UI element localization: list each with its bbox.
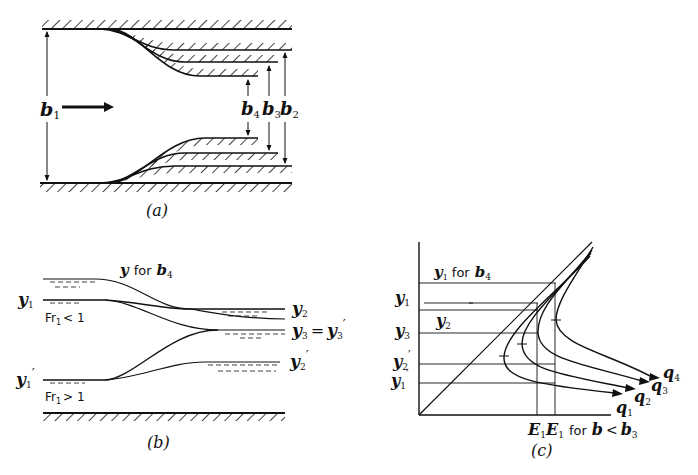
c-top-label: y1forb4 — [433, 263, 491, 282]
label-q4: q4 — [663, 363, 680, 383]
bottom-contractions — [100, 138, 292, 183]
surface-dashes — [50, 282, 285, 383]
label-fr-supercritical: Fr1> 1 — [45, 390, 85, 406]
panel-a-caption: (a) — [146, 201, 168, 220]
curve-q4 — [556, 247, 652, 377]
b2-label: b2 — [280, 98, 299, 120]
channel-bed-hatch — [43, 414, 285, 421]
label-y3-eq-y3-prime: y3=y3′ — [291, 317, 346, 341]
label-q2: q2 — [634, 387, 651, 407]
curve-q1 — [504, 256, 615, 393]
bottom-wall-hatch — [40, 184, 292, 192]
c-label-y1: y1 — [394, 288, 410, 308]
panel-c-specific-energy-diagram: y1 y3 y2′ y1′ y1forb4 y2 q1 q2 q3 q4 E1E… — [390, 242, 680, 460]
top-contractions — [100, 29, 292, 76]
panel-b-title: yforb4 — [119, 261, 173, 280]
b3-label: b3 — [262, 98, 281, 120]
curve-q2 — [522, 253, 628, 388]
energy-curves — [504, 247, 652, 393]
water-surfaces — [43, 279, 285, 383]
label-q1: q1 — [616, 398, 633, 418]
top-wall-hatch — [42, 20, 292, 28]
c-x-label: E1E1forb<b3 — [527, 420, 638, 440]
panel-c-caption: (c) — [531, 441, 552, 460]
critical-ticks — [469, 303, 561, 356]
c-inner-y2: y2 — [435, 311, 451, 331]
figure-canvas: b1 b4 b3 b2 (a) yforb4 — [0, 0, 698, 475]
flow-arrow-head — [104, 102, 114, 112]
label-y1-prime: y1′ — [15, 366, 35, 390]
b4-label: b4 — [241, 98, 260, 120]
c-label-y3: y3 — [394, 321, 410, 341]
panel-a-channel-contraction: b1 b4 b3 b2 (a) — [40, 20, 299, 220]
label-fr-subcritical: Fr1< 1 — [45, 311, 85, 327]
panel-b-water-surface-profiles: yforb4 — [15, 261, 346, 452]
c-label-y1-prime: y1′ — [390, 368, 409, 391]
label-y2-prime: y2′ — [289, 348, 309, 372]
panel-b-caption: (b) — [147, 433, 170, 452]
label-y1: y1 — [17, 289, 34, 310]
curve-q3 — [538, 250, 642, 381]
b1-label: b1 — [40, 98, 60, 122]
label-y2: y2 — [291, 298, 308, 319]
